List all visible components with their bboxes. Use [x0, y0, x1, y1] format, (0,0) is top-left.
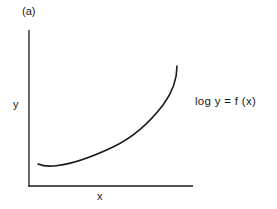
equation-label: log y = f (x): [195, 95, 256, 107]
function-curve: [38, 66, 177, 166]
y-axis-label: y: [13, 98, 19, 110]
x-axis-label: x: [97, 190, 103, 202]
